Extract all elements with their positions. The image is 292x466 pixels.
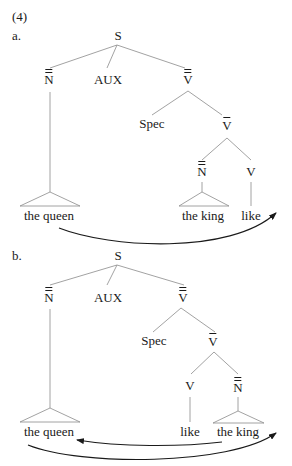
tree-b-leaf-the-queen: the queen — [24, 425, 74, 439]
tree-a-leaf-the-king: the king — [182, 209, 224, 223]
tree-a-label: a. — [12, 29, 21, 43]
tree-a-node-v-double-bar: V — [183, 73, 192, 87]
tree-b-node-n-double-bar-object: N — [233, 381, 242, 395]
tree-a-node-n-double-bar: N — [44, 73, 53, 87]
tree-b-leaf-the-king: the king — [217, 425, 259, 439]
tree-b-node-n-double-bar: N — [44, 291, 53, 305]
tree-b-leaf-like: like — [180, 425, 200, 439]
tree-lines — [0, 0, 292, 466]
tree-b-node-v: V — [185, 379, 194, 393]
tree-a-node-aux: AUX — [94, 73, 122, 87]
example-number: (4) — [12, 10, 27, 24]
tree-a-leaf-like: like — [241, 209, 261, 223]
tree-b-label: b. — [12, 249, 22, 263]
tree-a-node-n-double-bar-object: N — [197, 165, 206, 179]
tree-b-node-aux: AUX — [94, 291, 122, 305]
tree-b-node-s: S — [114, 249, 121, 263]
tree-b-node-v-bar: V — [208, 335, 217, 349]
tree-b-node-spec: Spec — [141, 334, 166, 348]
tree-a-node-spec: Spec — [139, 117, 164, 131]
tree-a-node-s: S — [114, 29, 121, 43]
tree-b-node-v-double-bar: V — [178, 291, 187, 305]
tree-a-node-v-bar: V — [222, 119, 231, 133]
tree-a-leaf-the-queen: the queen — [24, 209, 74, 223]
tree-a-node-v: V — [246, 165, 255, 179]
